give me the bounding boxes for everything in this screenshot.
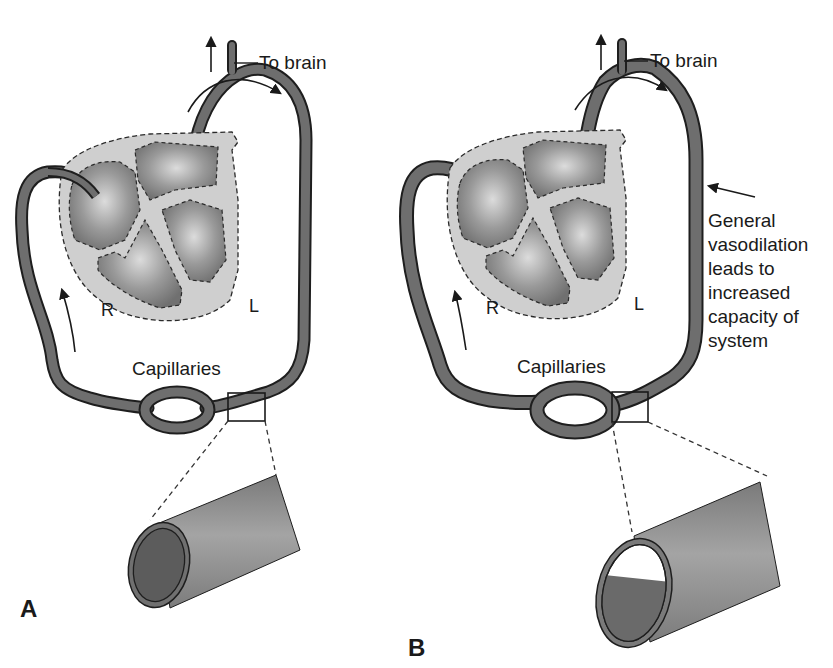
panel-label-b: B — [408, 636, 425, 660]
vasodilation-annotation: General vasodilation leads to increased … — [708, 209, 828, 353]
label-left-side-b: L — [634, 295, 644, 313]
label-to-brain-a: To brain — [259, 53, 327, 72]
panel-a — [22, 38, 306, 613]
label-capillaries-a: Capillaries — [132, 359, 221, 378]
label-right-side-b: R — [486, 299, 499, 317]
vessel-tube-a — [121, 475, 300, 613]
label-right-side-a: R — [101, 301, 114, 319]
arrow-return-a — [62, 290, 75, 352]
heart-a — [48, 132, 238, 321]
arrow-return-b — [455, 292, 466, 350]
label-capillaries-b: Capillaries — [517, 357, 606, 376]
label-to-brain-b: To brain — [650, 51, 718, 70]
heart-b — [447, 130, 626, 319]
arrow-vasodilation-b — [709, 186, 755, 197]
panel-label-a: A — [20, 597, 37, 621]
label-left-side-a: L — [249, 297, 259, 315]
vessel-tube-b — [586, 482, 780, 660]
